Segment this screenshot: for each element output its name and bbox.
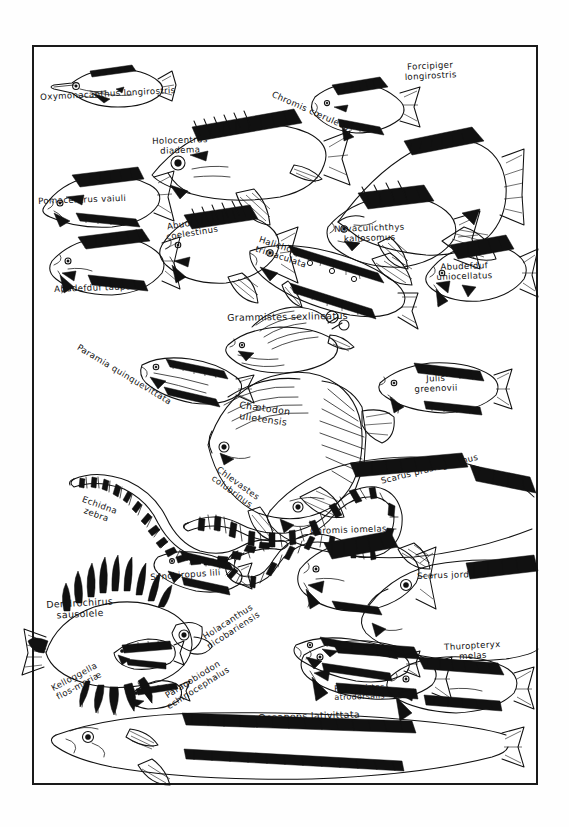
label-abudefduf-uniocellatus: Abudefdufuniocellatus xyxy=(436,261,493,282)
fish-plate-page: Oxymonacanthus longirostris Chromis cœru… xyxy=(0,0,569,827)
label-novaculichthys-kallosomus: Novaculichthyskallosomus xyxy=(334,223,405,245)
damselfish-icon xyxy=(312,77,421,141)
label-grammistes-sexlineatus: Grammistes sexlineatus xyxy=(227,311,348,324)
label-forcipiger-longirostris: Forcipigerlongirostris xyxy=(404,60,457,82)
label-julis-greenovii: Julisgreenovii xyxy=(414,373,458,394)
label-dendrochirus-sausolele: Dendrochirussausolele xyxy=(46,597,114,622)
coral-goby-icon xyxy=(114,639,184,669)
label-petroscirtes-atrodorsalis: Petroscirtesatrodorsalis xyxy=(334,683,385,702)
label-thuropteryx-melas: Thuropteryxmelas xyxy=(444,640,501,662)
neon-goby-icon xyxy=(51,713,524,785)
label-holocentrus-diadema: Holocentrusdiadema xyxy=(152,135,208,156)
